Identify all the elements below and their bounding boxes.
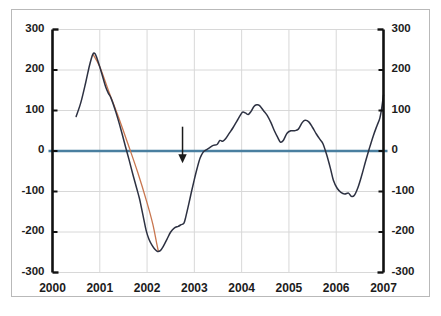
- y-axis-right-tick-label: 100: [392, 103, 426, 115]
- y-axis-left-tick-label: -200: [11, 224, 45, 236]
- x-axis-tick-label: 2001: [78, 281, 122, 295]
- chart-screenshot: 3002001000-100-200-300 3002001000-100-20…: [0, 0, 441, 316]
- annotation-arrow-group: [178, 127, 186, 163]
- x-axis-tick-label: 2007: [362, 281, 406, 295]
- x-axis-tick-label: 2004: [220, 281, 264, 295]
- series-line-secondary-series: [93, 55, 158, 252]
- y-axis-right-tick-label: 200: [392, 62, 426, 74]
- y-axis-right-tick-label: -100: [392, 184, 426, 196]
- x-axis-tick-label: 2002: [125, 281, 169, 295]
- y-axis-left-tick-label: -100: [11, 184, 45, 196]
- y-axis-left-tick-label: -300: [11, 265, 45, 277]
- x-axis-tick-label: 2006: [314, 281, 358, 295]
- y-axis-left-tick-label: 100: [11, 103, 45, 115]
- x-axis-tick-label: 2000: [31, 281, 75, 295]
- y-axis-right-tick-label: -300: [392, 265, 426, 277]
- y-axis-left-tick-label: 200: [11, 62, 45, 74]
- x-axis-tick-label: 2003: [172, 281, 216, 295]
- y-axis-left-tick-label: 0: [11, 143, 45, 155]
- down-arrow-head: [178, 154, 186, 163]
- y-axis-left-tick-label: 300: [11, 22, 45, 34]
- y-axis-right-tick-label: 0: [392, 143, 426, 155]
- chart-plot-area: [0, 0, 441, 316]
- x-axis-tick-label: 2005: [267, 281, 311, 295]
- y-axis-right-tick-label: -200: [392, 224, 426, 236]
- y-axis-right-tick-label: 300: [392, 22, 426, 34]
